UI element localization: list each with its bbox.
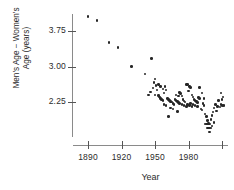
- data-point: [183, 100, 186, 103]
- y-axis-title-line-1: Men's Age − Women's: [12, 0, 22, 108]
- data-point: [162, 99, 165, 102]
- data-point: [155, 84, 158, 87]
- data-point: [205, 123, 208, 126]
- y-axis-tick: [68, 102, 76, 103]
- data-point: [213, 121, 216, 124]
- data-point: [178, 102, 181, 105]
- y-axis-tick: [68, 31, 76, 32]
- data-point: [185, 105, 188, 108]
- x-axis-tick: [88, 141, 89, 149]
- data-point: [210, 127, 213, 130]
- data-point: [170, 101, 173, 104]
- data-point: [108, 41, 111, 44]
- scatter-chart: 2.253.003.75 1890192019501980 Men's Age …: [0, 0, 234, 190]
- x-axis-tick: [122, 141, 123, 149]
- data-point: [188, 104, 191, 107]
- data-point: [181, 95, 184, 98]
- data-point: [208, 131, 211, 134]
- data-point: [189, 102, 192, 105]
- data-point: [222, 104, 225, 107]
- data-point: [168, 99, 171, 102]
- data-point: [175, 94, 178, 97]
- data-point: [188, 85, 191, 88]
- data-point: [149, 91, 152, 94]
- data-point: [154, 94, 157, 97]
- data-point: [117, 46, 120, 49]
- data-point: [206, 123, 209, 126]
- x-axis-tick: [155, 141, 156, 149]
- data-point: [223, 104, 226, 107]
- data-point: [147, 94, 150, 97]
- data-point: [169, 107, 172, 110]
- data-point: [207, 123, 210, 126]
- y-axis-tick-label: 2.25: [38, 97, 66, 106]
- data-point: [215, 110, 218, 113]
- data-point: [183, 104, 186, 107]
- data-point: [163, 92, 166, 95]
- data-point: [182, 98, 185, 101]
- data-point: [207, 122, 210, 125]
- data-point: [195, 100, 198, 103]
- data-point: [219, 106, 222, 109]
- data-point: [193, 98, 196, 101]
- data-point: [144, 73, 147, 76]
- y-axis-tick-labels: 2.253.003.75: [36, 0, 66, 190]
- data-point: [192, 96, 195, 99]
- data-point: [210, 118, 213, 121]
- data-point: [208, 123, 211, 126]
- y-axis-title-line-2: Age (years): [22, 0, 32, 108]
- y-axis-title: Men's Age − Women's Age (years): [12, 0, 32, 108]
- data-point: [207, 127, 210, 130]
- data-point: [159, 85, 162, 88]
- data-point: [220, 92, 223, 95]
- data-point: [198, 86, 201, 89]
- data-point: [201, 109, 204, 112]
- data-point: [172, 102, 175, 105]
- data-point: [194, 104, 197, 107]
- data-point: [130, 65, 133, 68]
- data-point: [201, 92, 204, 95]
- data-point: [221, 104, 224, 107]
- data-point: [204, 123, 207, 126]
- data-point: [162, 88, 165, 91]
- data-point: [173, 103, 176, 106]
- data-point: [150, 57, 153, 60]
- data-point: [212, 111, 215, 114]
- x-axis-line: [73, 145, 228, 146]
- data-point: [178, 91, 181, 94]
- data-point: [167, 98, 170, 101]
- data-point: [222, 96, 225, 99]
- data-point: [203, 104, 206, 107]
- data-point: [206, 119, 209, 122]
- data-point: [220, 103, 223, 106]
- data-point: [206, 127, 209, 130]
- x-axis-tick-label: 1890: [70, 152, 106, 162]
- data-point: [203, 97, 206, 100]
- data-point: [181, 103, 184, 106]
- data-point: [208, 127, 211, 130]
- data-point: [213, 107, 216, 110]
- data-point: [198, 97, 201, 100]
- data-point: [216, 105, 219, 108]
- data-point: [196, 101, 199, 104]
- data-point: [211, 125, 214, 128]
- data-point: [96, 19, 99, 22]
- data-point: [175, 99, 178, 102]
- data-point: [217, 99, 220, 102]
- data-point: [157, 83, 160, 86]
- x-axis-tick: [189, 141, 190, 149]
- data-point: [214, 103, 217, 106]
- data-point: [164, 85, 167, 88]
- x-axis-tick-label: 1980: [171, 152, 207, 162]
- data-point: [156, 89, 159, 92]
- data-point: [163, 103, 166, 106]
- data-point: [221, 98, 224, 101]
- data-point: [174, 98, 177, 101]
- data-point: [87, 15, 90, 18]
- data-point: [167, 115, 170, 118]
- data-point: [176, 100, 179, 103]
- data-point: [158, 96, 161, 99]
- data-point: [197, 96, 200, 99]
- data-point: [159, 97, 162, 100]
- x-axis-tick: [222, 141, 223, 149]
